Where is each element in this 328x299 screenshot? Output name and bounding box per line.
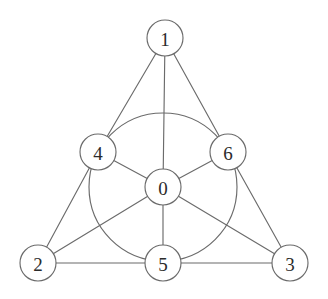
node-label-5: 5 bbox=[158, 254, 168, 275]
graph-node-6[interactable]: 6 bbox=[210, 134, 246, 170]
edge-6-3 bbox=[228, 152, 290, 263]
node-label-0: 0 bbox=[158, 178, 168, 199]
graph-canvas: 1 4 6 0 2 5 3 bbox=[0, 0, 328, 299]
graph-node-2[interactable]: 2 bbox=[20, 245, 56, 281]
graph-node-0[interactable]: 0 bbox=[145, 169, 181, 205]
edge-2-0 bbox=[38, 187, 163, 263]
edge-1-6 bbox=[165, 38, 228, 152]
graph-node-3[interactable]: 3 bbox=[272, 245, 308, 281]
graph-node-4[interactable]: 4 bbox=[80, 134, 116, 170]
edge-1-4 bbox=[98, 38, 165, 152]
node-label-6: 6 bbox=[223, 143, 233, 164]
fano-plane-diagram: 1 4 6 0 2 5 3 bbox=[0, 0, 328, 299]
node-label-1: 1 bbox=[160, 29, 170, 50]
graph-node-5[interactable]: 5 bbox=[145, 245, 181, 281]
node-label-2: 2 bbox=[33, 254, 43, 275]
node-label-3: 3 bbox=[285, 254, 295, 275]
graph-node-1[interactable]: 1 bbox=[147, 20, 183, 56]
edge-4-2 bbox=[38, 152, 98, 263]
edge-layer bbox=[38, 38, 290, 263]
node-label-4: 4 bbox=[93, 143, 103, 164]
